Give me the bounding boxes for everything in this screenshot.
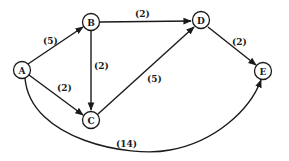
edge-label-b-c: (2) (94, 61, 109, 71)
node-b: B (83, 14, 100, 31)
graph-diagram: (5) (2) (2) (2) (5) (2) (14) A B C D E (0, 0, 289, 161)
edge-label-b-d: (2) (135, 9, 150, 19)
node-label-d: D (197, 16, 205, 26)
node-c: C (83, 112, 100, 129)
node-a: A (14, 62, 31, 79)
edge-label-c-d: (5) (147, 74, 162, 84)
node-label-e: E (260, 67, 267, 77)
node-label-c: C (87, 116, 94, 126)
edge-label-a-e: (14) (116, 139, 137, 149)
edge-b-d (100, 21, 191, 22)
edge-label-a-c: (2) (57, 83, 72, 93)
node-e: E (255, 63, 272, 80)
edge-c-d (98, 27, 194, 114)
edge-label-a-b: (5) (43, 36, 58, 46)
node-label-a: A (18, 66, 27, 76)
node-label-b: B (87, 18, 95, 28)
node-d: D (193, 12, 210, 29)
edge-label-d-e: (2) (232, 37, 247, 47)
